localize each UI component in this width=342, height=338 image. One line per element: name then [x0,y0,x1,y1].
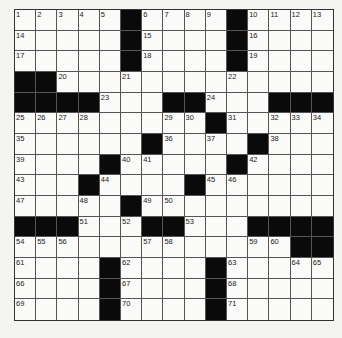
grid-cell[interactable] [291,175,312,196]
grid-cell[interactable] [79,31,100,52]
grid-cell[interactable] [100,72,121,93]
grid-cell[interactable] [163,279,184,300]
grid-cell[interactable]: 28 [79,113,100,134]
grid-cell[interactable] [185,31,206,52]
grid-cell[interactable] [248,299,269,320]
grid-cell[interactable] [248,258,269,279]
grid-cell[interactable]: 24 [206,93,227,114]
grid-cell[interactable]: 67 [121,279,142,300]
grid-cell[interactable] [206,72,227,93]
grid-cell[interactable] [227,217,248,238]
grid-cell[interactable] [163,175,184,196]
grid-cell[interactable] [121,237,142,258]
grid-cell[interactable] [57,51,78,72]
grid-cell[interactable]: 56 [57,237,78,258]
grid-cell[interactable] [206,217,227,238]
grid-cell[interactable] [291,279,312,300]
grid-cell[interactable]: 15 [142,31,163,52]
grid-cell[interactable]: 37 [206,134,227,155]
grid-cell[interactable] [185,134,206,155]
grid-cell[interactable]: 20 [57,72,78,93]
grid-cell[interactable] [36,299,57,320]
grid-cell[interactable] [100,237,121,258]
grid-cell[interactable]: 31 [227,113,248,134]
grid-cell[interactable]: 35 [15,134,36,155]
grid-cell[interactable]: 54 [15,237,36,258]
grid-cell[interactable] [269,155,290,176]
grid-cell[interactable] [312,155,333,176]
grid-cell[interactable]: 52 [121,217,142,238]
grid-cell[interactable] [248,175,269,196]
grid-cell[interactable] [57,279,78,300]
grid-cell[interactable]: 66 [15,279,36,300]
grid-cell[interactable]: 65 [312,258,333,279]
grid-cell[interactable] [100,113,121,134]
grid-cell[interactable]: 42 [248,155,269,176]
grid-cell[interactable]: 40 [121,155,142,176]
grid-cell[interactable] [312,196,333,217]
grid-cell[interactable] [312,175,333,196]
grid-cell[interactable] [291,196,312,217]
grid-cell[interactable]: 12 [291,10,312,31]
grid-cell[interactable]: 47 [15,196,36,217]
grid-cell[interactable] [142,93,163,114]
grid-cell[interactable]: 26 [36,113,57,134]
grid-cell[interactable]: 27 [57,113,78,134]
grid-cell[interactable]: 64 [291,258,312,279]
grid-cell[interactable] [163,51,184,72]
grid-cell[interactable] [100,217,121,238]
grid-cell[interactable]: 53 [185,217,206,238]
grid-cell[interactable]: 1 [15,10,36,31]
grid-cell[interactable] [206,196,227,217]
grid-cell[interactable] [163,72,184,93]
grid-cell[interactable] [36,258,57,279]
grid-cell[interactable] [121,134,142,155]
grid-cell[interactable] [36,31,57,52]
grid-cell[interactable] [269,175,290,196]
grid-cell[interactable]: 33 [291,113,312,134]
grid-cell[interactable] [291,155,312,176]
grid-cell[interactable]: 11 [269,10,290,31]
grid-cell[interactable]: 55 [36,237,57,258]
grid-cell[interactable] [142,279,163,300]
grid-cell[interactable]: 46 [227,175,248,196]
grid-cell[interactable] [248,93,269,114]
grid-cell[interactable]: 32 [269,113,290,134]
grid-cell[interactable]: 13 [312,10,333,31]
grid-cell[interactable]: 44 [100,175,121,196]
grid-cell[interactable]: 68 [227,279,248,300]
grid-cell[interactable]: 6 [142,10,163,31]
grid-cell[interactable]: 71 [227,299,248,320]
grid-cell[interactable] [100,196,121,217]
grid-cell[interactable]: 34 [312,113,333,134]
grid-cell[interactable] [269,299,290,320]
grid-cell[interactable]: 70 [121,299,142,320]
grid-cell[interactable] [291,72,312,93]
grid-cell[interactable]: 60 [269,237,290,258]
grid-cell[interactable] [291,299,312,320]
grid-cell[interactable] [36,279,57,300]
grid-cell[interactable] [206,155,227,176]
grid-cell[interactable]: 5 [100,10,121,31]
grid-cell[interactable] [121,93,142,114]
grid-cell[interactable]: 19 [248,51,269,72]
grid-cell[interactable] [312,299,333,320]
grid-cell[interactable]: 57 [142,237,163,258]
grid-cell[interactable] [100,51,121,72]
grid-cell[interactable] [248,113,269,134]
grid-cell[interactable]: 16 [248,31,269,52]
grid-cell[interactable] [185,51,206,72]
grid-cell[interactable] [57,175,78,196]
grid-cell[interactable]: 7 [163,10,184,31]
grid-cell[interactable]: 51 [79,217,100,238]
grid-cell[interactable]: 9 [206,10,227,31]
grid-cell[interactable] [79,51,100,72]
grid-cell[interactable]: 17 [15,51,36,72]
grid-cell[interactable]: 2 [36,10,57,31]
grid-cell[interactable] [227,93,248,114]
grid-cell[interactable]: 43 [15,175,36,196]
grid-cell[interactable] [312,279,333,300]
grid-cell[interactable] [227,237,248,258]
grid-cell[interactable] [79,134,100,155]
grid-cell[interactable]: 18 [142,51,163,72]
